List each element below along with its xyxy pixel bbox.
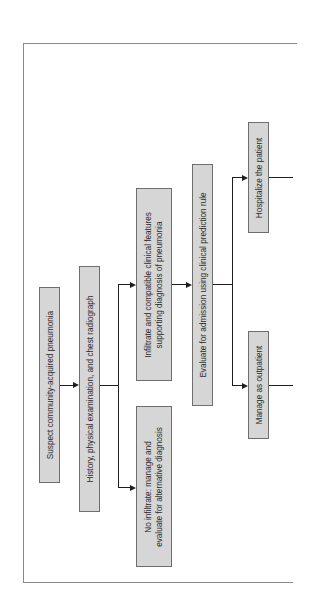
node-manage-outpatient: Manage as outpatient [248,331,269,439]
node-label-line1: Infiltrate and compatible clinical featu… [144,212,153,358]
edge-outpatient-continue [269,385,293,386]
node-label: Manage as outpatient [253,346,264,425]
node-label: Infiltrate and compatible clinical featu… [143,212,165,358]
node-label: Evaluate for admission using clinical pr… [197,192,208,377]
node-hospitalize: Hospitalize the patient [248,122,269,233]
frame-bottom-border [23,582,293,583]
branch-line-history [118,284,119,488]
node-label: No infiltrate: manage andevaluate for al… [143,427,165,547]
node-label-line2: evaluate for alternative diagnosis [155,427,164,547]
node-label: History, physical examination, and chest… [84,296,95,483]
node-label-line2: supporting diagnosis of pneumonia [155,221,164,348]
edge-evaluate-branch [213,284,232,285]
branch-line-evaluate [232,177,233,386]
node-label: Hospitalize the patient [253,137,264,218]
edge-history-branch [100,385,118,386]
node-infiltrate-compatible: Infiltrate and compatible clinical featu… [136,188,172,381]
node-history-exam-radiograph: History, physical examination, and chest… [79,266,100,512]
node-label-line1: No infiltrate: manage and [144,441,153,532]
node-no-infiltrate: No infiltrate: manage andevaluate for al… [136,406,172,567]
frame-top-border [23,43,297,44]
node-suspect-pneumonia: Suspect community-acquired pneumonia [39,287,60,483]
edge-infiltrate-evaluate [172,284,187,285]
node-evaluate-admission: Evaluate for admission using clinical pr… [192,164,213,406]
edge-hospitalize-continue [269,177,293,178]
edge-suspect-history [60,385,74,386]
frame-left-border [23,43,24,583]
node-label: Suspect community-acquired pneumonia [44,311,55,459]
